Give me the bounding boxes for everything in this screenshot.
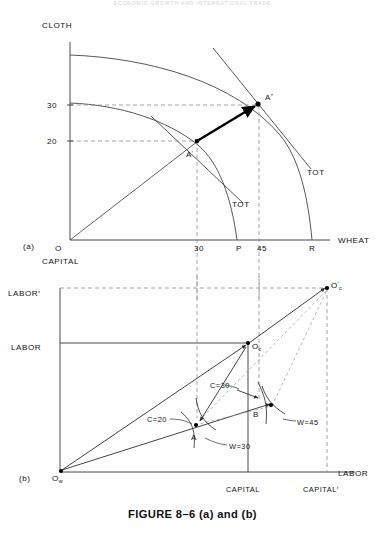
isoquant-c20 [196,398,216,430]
capital-tick-label: CAPITAL [226,485,260,494]
contract-curve-upper [195,290,327,425]
isoquant-c30 [262,386,285,414]
panel-a-y-axis-label: CLOTH [42,21,72,30]
label-point-a: A [191,433,197,442]
ray-oc-ocprime [249,288,325,343]
panel-b: LABOR′ LABOR LABOR CAPITAL CAPITAL′ (b) … [8,276,368,494]
point-a-double-prime [255,101,260,106]
panel-a-xtick-label-r: R [309,244,315,253]
tot-label-new: TOT [307,168,325,177]
tot-line-new [213,48,311,169]
ppf-initial [70,103,237,240]
label-oc-prime: O′c [331,281,342,292]
isoquant-label-c30: C=30 [210,381,230,390]
tot-line-initial [151,116,243,203]
panel-a-x-axis-label: WHEAT [338,236,369,245]
point-b [269,403,273,407]
labor-prime-label: LABOR′ [8,289,40,298]
isoquant-label-c20: C=20 [147,415,167,424]
figure-caption: FIGURE 8–6 (a) and (b) [0,508,385,520]
isoquant-label-w45: W=45 [297,418,319,427]
leader-w45 [283,419,296,421]
panel-a-origin-label: O [55,244,62,253]
isoquant-label-w30: W=30 [229,442,251,451]
panel-a-tag: (a) [23,242,35,251]
panel-a-xtick-label-30: 30 [194,244,204,253]
panel-a: CLOTH WHEAT 30 20 30 P 45 R (a) O CAPITA… [23,21,369,300]
panel-b-tag: (b) [19,474,31,483]
tot-label-initial: TOT [232,200,250,209]
panel-a-origin-sub-label: CAPITAL [42,257,79,266]
label-a-double-prime: A″ [265,93,274,103]
panel-a-ytick-label-30: 30 [47,101,57,110]
label-oc: Oc [252,342,262,352]
point-a [194,423,198,427]
label-a-prime: A′ [186,150,194,160]
panel-a-xtick-label-p: P [236,244,242,253]
capital-prime-tick-label: CAPITAL′ [303,485,339,494]
point-oc-prime [325,286,329,290]
label-point-b: B [253,410,259,419]
figure-svg: CLOTH WHEAT 30 20 30 P 45 R (a) O CAPITA… [0,0,385,535]
labor-label: LABOR [11,343,41,352]
point-a-prime [195,139,200,144]
point-ow [59,469,63,473]
figure-root: ECONOMIC GROWTH AND INTERNATIONAL TRADE [0,0,385,535]
contract-curve-b-ocprime [272,290,327,406]
growth-ray [70,141,198,240]
point-oc [246,341,250,345]
panel-b-origin-label: Ow [52,474,63,484]
growth-arrow [197,106,255,141]
panel-a-xtick-label-45: 45 [257,244,267,253]
panel-a-ytick-label-20: 20 [47,137,57,146]
panel-b-x-axis-label: LABOR [338,469,368,478]
ray-ow-oc [62,345,246,470]
leader-w30 [205,438,227,445]
